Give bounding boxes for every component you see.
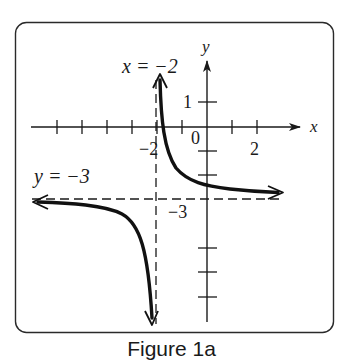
tick-label-x-2: 2 bbox=[250, 139, 259, 159]
vertical-asymptote-label: x = −2 bbox=[121, 55, 178, 77]
figure-caption: Figure 1a bbox=[0, 337, 343, 361]
figure-graph: y x x = −2 y = −3 −2 0 2 1 −3 bbox=[0, 0, 343, 364]
tick-label-y-1: 1 bbox=[183, 92, 192, 112]
x-axis-label: x bbox=[309, 117, 318, 136]
horizontal-asymptote-label: y = −3 bbox=[32, 165, 90, 188]
tick-label-x-0: 0 bbox=[191, 128, 200, 148]
tick-label-y-neg3: −3 bbox=[168, 202, 187, 222]
tick-label-x-neg2: −2 bbox=[139, 139, 158, 159]
vertical-asymptote-label-text: x = −2 bbox=[121, 55, 178, 77]
horizontal-asymptote-label-text: y = −3 bbox=[32, 165, 90, 188]
y-axis-label: y bbox=[200, 37, 210, 56]
